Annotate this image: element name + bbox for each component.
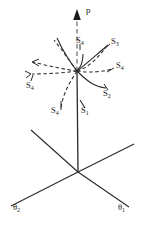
- s4-left-dashed-upper: [33, 62, 77, 71]
- dashed-arrowheads: [25, 59, 39, 78]
- p-axis-group: [73, 9, 81, 172]
- theta2-axis-line: [11, 172, 78, 206]
- s4-left-arrowhead-upper: [32, 59, 39, 66]
- s2-curve: [77, 71, 106, 88]
- s4-left-dashed-lower: [32, 71, 77, 74]
- axis-label-theta2: θ2: [13, 203, 20, 212]
- surface-label-s2-right: S2: [103, 89, 111, 98]
- surface-label-s4-top: S4: [76, 36, 84, 45]
- dashed-branch-curves: [32, 40, 112, 108]
- base-axes-group: [11, 130, 134, 207]
- p-axis-arrowhead: [73, 9, 81, 20]
- p-axis-solid-stem: [77, 71, 78, 172]
- surface-label-s4-right: S4: [116, 61, 124, 70]
- axis-label-p: p: [86, 6, 91, 15]
- s4-left-arrowhead-lower: [25, 71, 31, 78]
- surface-label-s3-right: S3: [111, 37, 119, 46]
- stress-space-diagram: p θ1 θ2 S4 S3 S4 S2 S4 S4 S1: [0, 0, 143, 226]
- s3-curve: [77, 45, 108, 71]
- base-axis-back-left: [31, 130, 78, 172]
- axis-label-theta1: θ1: [118, 203, 125, 212]
- surface-label-s4-lower: S4: [51, 106, 59, 115]
- solid-branch-curves: [57, 38, 108, 108]
- s4-right-dashed: [77, 69, 112, 72]
- surface-label-s1-lower: S1: [81, 106, 89, 115]
- s3-tick: [104, 44, 110, 49]
- base-axis-back-right: [78, 144, 134, 172]
- label-leader-ticks: [31, 44, 114, 110]
- s4-lower-dashed: [61, 71, 77, 108]
- diagram-canvas: [0, 0, 143, 226]
- upper-left-solid-curve: [57, 38, 77, 71]
- surface-label-s4-left: S4: [26, 81, 34, 90]
